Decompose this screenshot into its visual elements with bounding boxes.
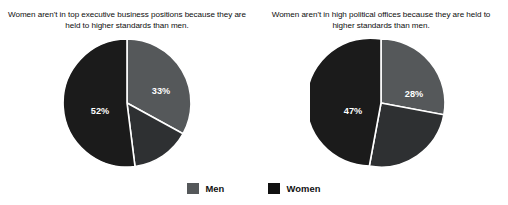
chart-panels: Women aren't in top executive business p…	[0, 0, 508, 172]
pie-chart-figure: Women aren't in top executive business p…	[0, 0, 508, 205]
pie-chart-business: 33% 52%	[56, 38, 198, 168]
legend-swatch-men-icon	[187, 183, 199, 194]
pie-label-women: 47%	[344, 106, 362, 116]
pie-label-men: 28%	[405, 89, 423, 99]
legend-swatch-women-icon	[268, 183, 280, 194]
pie-wrap-business: 33% 52%	[0, 38, 254, 172]
chart-panel-political: Women aren't in high political offices b…	[254, 0, 508, 172]
pie-label-men: 33%	[152, 86, 170, 96]
legend-label-women: Women	[286, 183, 320, 194]
legend-label-men: Men	[205, 183, 224, 194]
pie-slice-other	[369, 103, 444, 167]
pie-slice-women	[310, 38, 381, 166]
pie-wrap-political: 28% 47%	[254, 38, 508, 172]
chart-legend: Men Women	[0, 172, 508, 205]
panel-title-political: Women aren't in high political offices b…	[254, 9, 508, 32]
pie-chart-political: 28% 47%	[310, 38, 452, 168]
pie-slice-women	[63, 39, 135, 167]
pie-slice-men	[381, 39, 445, 115]
pie-label-women: 52%	[91, 106, 109, 116]
legend-item-men: Men	[187, 183, 224, 194]
chart-panel-business: Women aren't in top executive business p…	[0, 0, 254, 172]
legend-item-women: Women	[268, 183, 320, 194]
panel-title-business: Women aren't in top executive business p…	[0, 9, 254, 32]
